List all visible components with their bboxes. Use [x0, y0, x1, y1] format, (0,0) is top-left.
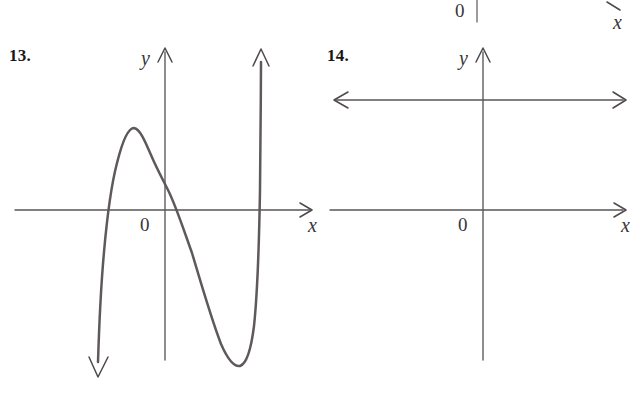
problem-14-graph — [318, 0, 636, 404]
figure-page: 0 x 13. y x 0 14. — [0, 0, 636, 404]
problem-13-panel: 13. y x 0 — [0, 0, 318, 404]
problem-13-curve — [98, 62, 261, 366]
problem-14-origin-label: 0 — [458, 215, 468, 234]
problem-14-y-axis-label: y — [459, 48, 468, 68]
problem-13-graph — [0, 0, 318, 404]
problem-14-x-axis-label: x — [621, 215, 630, 235]
problem-13-origin-label: 0 — [140, 215, 150, 234]
problem-13-y-axis-label: y — [141, 48, 150, 68]
problem-14-panel: 14. y x 0 — [318, 0, 636, 404]
problem-13-x-axis-label: x — [308, 215, 317, 235]
